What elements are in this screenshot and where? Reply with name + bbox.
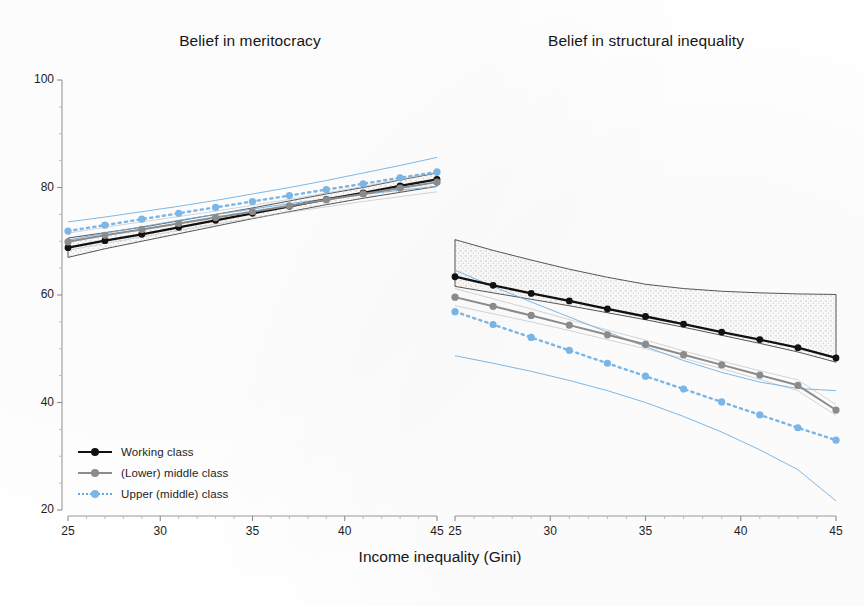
data-point	[680, 385, 687, 392]
data-point	[452, 273, 459, 280]
data-point	[323, 196, 330, 203]
data-point	[832, 406, 839, 413]
data-point	[490, 282, 497, 289]
y-tick-label: 80	[14, 180, 54, 194]
data-point	[718, 398, 725, 405]
x-tick-label: 35	[626, 524, 666, 538]
panel-right	[451, 240, 839, 501]
data-point	[64, 227, 71, 234]
legend-dot-icon	[91, 490, 99, 498]
data-point	[397, 174, 404, 181]
data-point	[566, 298, 573, 305]
legend-key-icon	[78, 488, 112, 500]
data-point	[756, 371, 763, 378]
data-point	[794, 382, 801, 389]
plot-canvas	[0, 0, 864, 606]
data-point	[833, 354, 840, 361]
data-point	[360, 190, 367, 197]
data-point	[756, 336, 763, 343]
data-point	[397, 184, 404, 191]
x-tick-label: 30	[140, 524, 180, 538]
data-point	[101, 222, 108, 229]
figure: Belief in meritocracy Belief in structur…	[0, 0, 864, 606]
data-point	[323, 186, 330, 193]
x-tick-label: 40	[721, 524, 761, 538]
x-tick-label: 35	[233, 524, 273, 538]
x-axis-label: Income inequality (Gini)	[120, 548, 760, 566]
x-tick-label: 40	[325, 524, 365, 538]
data-point	[138, 226, 145, 233]
x-tick-label: 25	[48, 524, 88, 538]
data-point	[642, 313, 649, 320]
legend-item-label: (Lower) middle class	[121, 467, 228, 479]
data-point	[175, 220, 182, 227]
data-point	[451, 308, 458, 315]
data-point	[249, 198, 256, 205]
legend-key-icon	[78, 467, 112, 479]
y-tick-label: 20	[14, 502, 54, 516]
legend-item-label: Upper (middle) class	[121, 488, 228, 500]
data-point	[642, 373, 649, 380]
data-point	[604, 331, 611, 338]
data-point	[528, 312, 535, 319]
data-point	[433, 168, 440, 175]
data-point	[566, 322, 573, 329]
data-point	[286, 202, 293, 209]
y-tick-label: 100	[14, 72, 54, 86]
data-point	[718, 329, 725, 336]
legend-item-label: Working class	[121, 446, 194, 458]
legend-dot-icon	[91, 469, 99, 477]
data-point	[138, 216, 145, 223]
legend-dot-icon	[91, 448, 99, 456]
legend-key-icon	[78, 446, 112, 458]
data-point	[604, 306, 611, 313]
data-point	[756, 411, 763, 418]
panel-left	[64, 157, 440, 257]
data-point	[212, 204, 219, 211]
x-tick-label: 45	[816, 524, 856, 538]
x-tick-label: 30	[530, 524, 570, 538]
data-point	[794, 424, 801, 431]
data-point	[451, 294, 458, 301]
legend-item-upper-middle-class[interactable]: Upper (middle) class	[78, 485, 228, 503]
data-point	[212, 214, 219, 221]
data-point	[642, 341, 649, 348]
data-point	[64, 238, 71, 245]
data-point	[718, 361, 725, 368]
legend: Working class(Lower) middle classUpper (…	[78, 443, 278, 505]
x-tick-label: 25	[435, 524, 475, 538]
data-point	[490, 303, 497, 310]
data-point	[604, 360, 611, 367]
data-point	[680, 321, 687, 328]
data-point	[528, 334, 535, 341]
y-tick-label: 40	[14, 395, 54, 409]
legend-item-lower-middle-class[interactable]: (Lower) middle class	[78, 464, 228, 482]
data-point	[175, 210, 182, 217]
data-point	[528, 290, 535, 297]
data-point	[433, 179, 440, 186]
data-point	[360, 180, 367, 187]
legend-item-working-class[interactable]: Working class	[78, 443, 194, 461]
y-tick-label: 60	[14, 287, 54, 301]
data-point	[490, 321, 497, 328]
data-point	[249, 208, 256, 215]
data-point	[795, 344, 802, 351]
data-point	[566, 347, 573, 354]
data-point	[832, 437, 839, 444]
data-point	[101, 232, 108, 239]
data-point	[286, 192, 293, 199]
data-point	[680, 351, 687, 358]
